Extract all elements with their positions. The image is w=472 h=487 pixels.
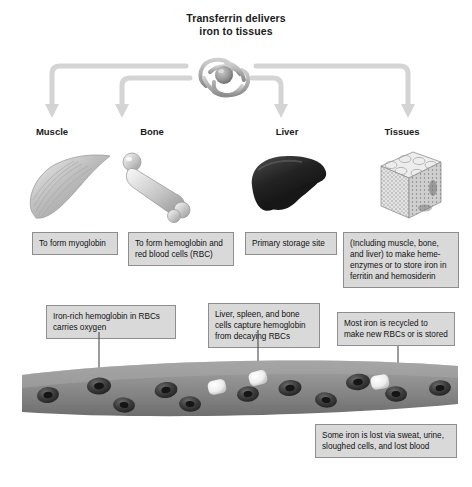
caption-liver: Primary storage site	[245, 232, 337, 255]
caption-tissues: (Including muscle, bone, and liver) to m…	[343, 232, 459, 288]
title-line-1: Transferrin delivers	[0, 12, 472, 25]
organ-label-tissues: Tissues	[360, 126, 444, 137]
callout-iron-loss: Some iron is lost via sweat, urine, slou…	[315, 424, 457, 458]
title-line-2: iron to tissues	[0, 25, 472, 38]
organ-label-muscle: Muscle	[10, 126, 94, 137]
iron-transport-diagram: Transferrin delivers iron to tissues	[0, 0, 472, 487]
transferrin-molecule-icon	[190, 50, 260, 105]
red-blood-cell	[36, 372, 451, 413]
diagram-title: Transferrin delivers iron to tissues	[0, 12, 472, 38]
bone-icon	[110, 150, 196, 226]
white-blood-cell	[207, 369, 390, 396]
callout-hemoglobin-oxygen: Iron-rich hemoglobin in RBCs carries oxy…	[46, 305, 176, 339]
tissue-cube-icon	[375, 148, 447, 224]
muscle-icon	[22, 148, 118, 226]
caption-bone: To form hemoglobin and red blood cells (…	[128, 232, 234, 266]
callout-capture-hemoglobin: Liver, spleen, and bone cells capture he…	[208, 303, 320, 348]
caption-muscle: To form myoglobin	[32, 232, 118, 255]
organ-label-bone: Bone	[110, 126, 194, 137]
callout-recycled-iron: Most iron is recycled to make new RBCs o…	[337, 312, 455, 346]
liver-icon	[248, 150, 332, 222]
organ-label-liver: Liver	[245, 126, 329, 137]
